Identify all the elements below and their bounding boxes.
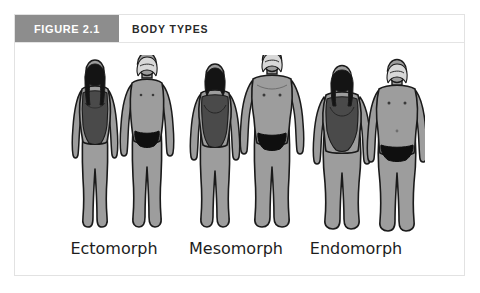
figure-container: FIGURE 2.1 BODY TYPES xyxy=(14,14,465,276)
figure-mesomorph-male xyxy=(240,55,304,227)
figure-number-badge: FIGURE 2.1 xyxy=(15,15,119,42)
figure-header: FIGURE 2.1 BODY TYPES xyxy=(15,15,464,43)
figure-captions: Ectomorph Mesomorph Endomorph xyxy=(15,239,464,269)
body-types-diagram xyxy=(47,55,425,237)
caption-mesomorph: Mesomorph xyxy=(167,239,305,258)
figure-ectomorph-female xyxy=(72,60,118,227)
figure-mesomorph-female xyxy=(190,64,240,227)
figure-endomorph-male xyxy=(367,60,425,232)
figure-illustration: Ectomorph Mesomorph Endomorph xyxy=(15,43,464,275)
figure-title: BODY TYPES xyxy=(132,15,209,42)
caption-endomorph: Endomorph xyxy=(291,239,421,258)
figure-endomorph-female xyxy=(313,66,371,230)
caption-ectomorph: Ectomorph xyxy=(51,239,177,258)
figure-ectomorph-male xyxy=(120,55,174,227)
